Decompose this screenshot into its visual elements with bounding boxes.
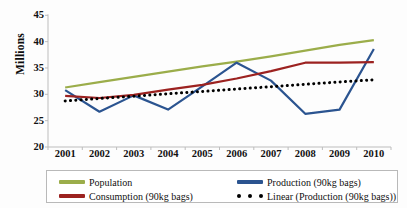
legend-line-marker-icon	[237, 180, 263, 184]
legend-item-label: Linear (Production (90kg bags))	[267, 191, 396, 202]
legend-line-marker-icon	[59, 194, 85, 198]
legend-dotted-marker-icon	[237, 194, 263, 199]
legend-dot-icon	[248, 194, 252, 198]
legend-item[interactable]: Consumption (90kg bags)	[59, 189, 193, 203]
series-line-linear-production-90kg-bags	[65, 80, 374, 101]
legend-line-marker-icon	[59, 180, 85, 184]
legend-item-label: Production (90kg bags)	[267, 177, 361, 188]
legend-item[interactable]: Production (90kg bags)	[237, 175, 361, 189]
chart-container: Millions 202530354045 200120022003200420…	[0, 0, 407, 208]
legend-dot-icon	[237, 194, 241, 198]
legend-item[interactable]: Linear (Production (90kg bags))	[237, 189, 396, 203]
legend-dot-icon	[259, 194, 263, 198]
chart-legend: PopulationProduction (90kg bags)Consumpt…	[46, 170, 398, 203]
legend-item-label: Population	[89, 177, 132, 188]
legend-item-label: Consumption (90kg bags)	[89, 191, 193, 202]
legend-item[interactable]: Population	[59, 175, 132, 189]
